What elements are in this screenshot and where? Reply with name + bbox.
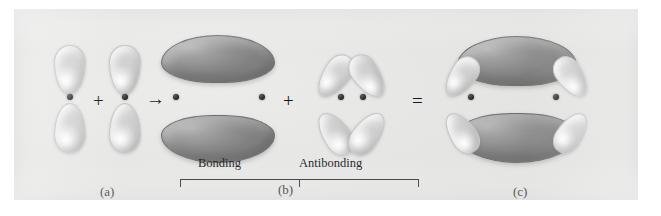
bracket-tick-middle (299, 180, 300, 187)
arrow-right-icon: → (146, 89, 165, 108)
p-orbital-left-lower-lobe (54, 103, 86, 153)
bonding-antibonding-bracket (180, 179, 419, 188)
nucleus-bonding-right (259, 94, 265, 100)
combined-bonding-bottom-lobe (457, 113, 577, 163)
bracket-tick-left (180, 179, 181, 187)
bonding-label: Bonding (198, 156, 241, 171)
nucleus-bonding-left (173, 94, 179, 100)
figure-plate: + → + (14, 9, 638, 200)
combined-left-lower-outer-lobe (438, 107, 486, 159)
plus-sign-1-icon: + (93, 91, 104, 110)
panel-label-c: (c) (513, 184, 527, 200)
combined-right-lower-outer-lobe (547, 107, 595, 159)
nucleus-combined-left (468, 94, 474, 100)
nucleus-antibonding-left (338, 94, 344, 100)
p-orbital-right-lower-lobe (109, 103, 141, 153)
bonding-orbital-top-lobe (161, 35, 275, 83)
nucleus-antibonding-right (360, 94, 366, 100)
antibonding-right-upper-lobe (342, 49, 392, 104)
nucleus-combined-right (553, 94, 559, 100)
antibonding-label: Antibonding (299, 156, 362, 171)
combined-left-upper-outer-lobe (438, 51, 486, 103)
nucleus-p-orbital-left (67, 94, 73, 100)
antibonding-right-lower-lobe (342, 106, 392, 161)
nucleus-p-orbital-right (122, 94, 128, 100)
plus-sign-2-icon: + (283, 91, 294, 110)
panel-label-b: (b) (278, 182, 293, 198)
antibonding-left-lower-lobe (310, 106, 360, 161)
bracket-tick-right (418, 179, 419, 187)
molecular-orbital-figure: + → + (0, 0, 661, 216)
panel-label-a: (a) (100, 184, 114, 200)
p-orbital-left-upper-lobe (54, 45, 86, 95)
antibonding-left-upper-lobe (310, 49, 360, 104)
combined-bonding-top-lobe (457, 36, 577, 86)
equals-sign-icon: = (412, 91, 423, 110)
p-orbital-right-upper-lobe (109, 45, 141, 95)
